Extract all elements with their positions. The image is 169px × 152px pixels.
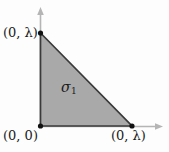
simplex-figure: (0, λ) (0, 0) (0, λ) σ1 [0, 0, 169, 152]
vertex-dot-top-left [38, 30, 43, 35]
region-subscript: 1 [71, 86, 77, 96]
vertex-dot-origin [38, 123, 43, 128]
vertex-label-bottom-right: (0, λ) [111, 128, 146, 143]
vertex-label-origin: (0, 0) [3, 128, 38, 143]
right-arrow-icon [155, 123, 163, 130]
up-arrow-icon [37, 7, 44, 15]
region-symbol: σ [61, 79, 71, 95]
simplex-region [41, 33, 133, 126]
vertex-label-top-left: (0, λ) [3, 25, 38, 40]
region-label: σ1 [61, 79, 77, 96]
